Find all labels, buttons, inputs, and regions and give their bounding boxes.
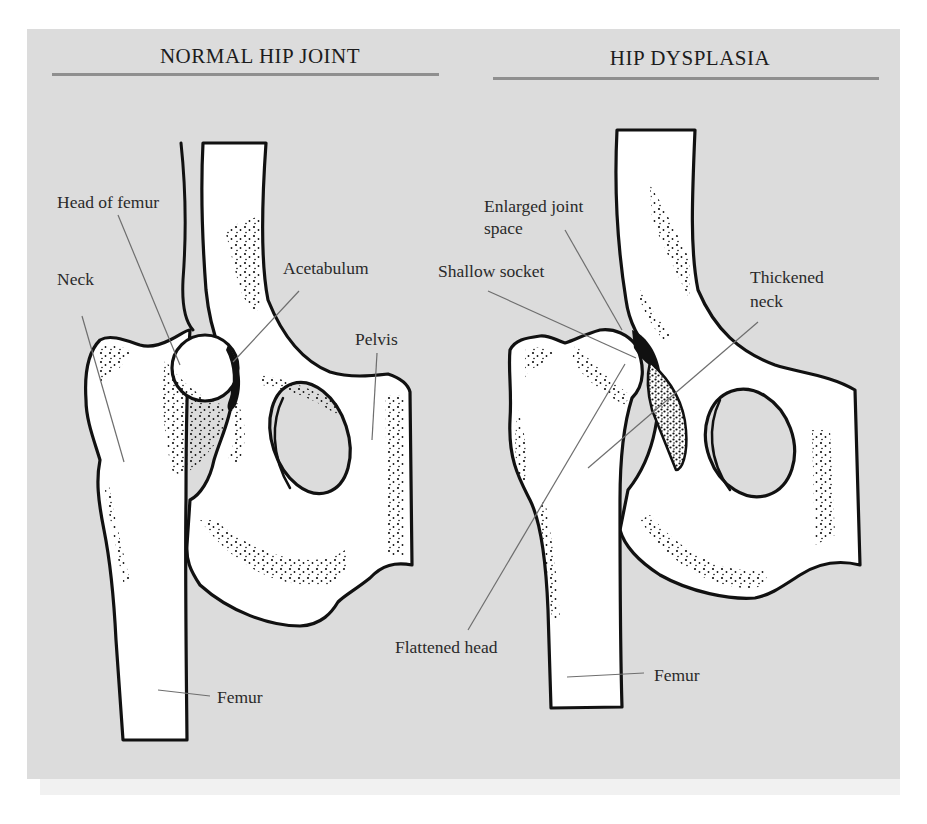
label-thickened-neck-line1: Thickened [750, 266, 824, 288]
hip-illustrations [0, 0, 927, 824]
label-femur-normal: Femur [217, 686, 263, 708]
leader-enlarged-joint-space [565, 230, 622, 330]
normal-hip-drawing [86, 143, 412, 740]
label-femur-dysplasia: Femur [654, 664, 700, 686]
label-pelvis: Pelvis [355, 328, 398, 350]
label-shallow-socket: Shallow socket [438, 260, 544, 282]
label-enlarged-joint-space-line2: space [484, 217, 523, 239]
label-enlarged-joint-space-line1: Enlarged joint [484, 195, 583, 217]
label-thickened-neck-line2: neck [750, 290, 783, 312]
label-acetabulum: Acetabulum [283, 257, 369, 279]
label-neck: Neck [57, 268, 94, 290]
label-flattened-head: Flattened head [395, 636, 498, 658]
label-head-of-femur: Head of femur [57, 191, 159, 213]
